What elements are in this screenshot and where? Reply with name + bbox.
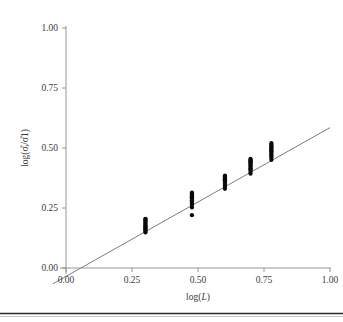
x-tick-label: 0.75 [256,275,273,285]
data-point [223,174,227,178]
data-point [248,157,252,161]
plot-background [0,0,343,322]
y-tick-label: 0.50 [41,143,58,153]
data-point [143,217,147,221]
y-tick-label: 0.00 [41,263,58,273]
scatter-plot: 0.000.250.500.751.00 0.000.250.500.751.0… [0,0,343,322]
figure-container: 0.000.250.500.751.00 0.000.250.500.751.0… [0,0,343,322]
data-point [190,191,194,195]
data-point [269,141,273,145]
y-tick-label: 0.25 [41,203,58,213]
data-point [190,213,194,217]
x-tick-label: 0.25 [124,275,141,285]
y-tick-label: 1.00 [41,23,58,33]
x-tick-label: 0.00 [58,275,75,285]
y-axis-title: log(σ̂ᵢ/σ̂1) [20,129,31,167]
x-tick-label: 0.50 [190,275,207,285]
x-axis-title: log(L) [186,292,210,303]
y-tick-label: 0.75 [41,83,58,93]
x-tick-label: 1.00 [322,275,339,285]
